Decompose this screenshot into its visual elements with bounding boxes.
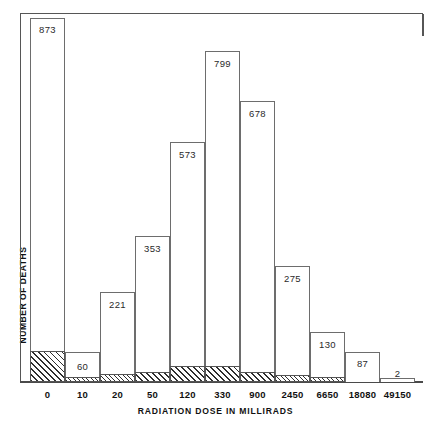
bar-hatch-1 [65, 377, 100, 382]
bar-2[interactable]: 221 [100, 292, 135, 382]
x-tick-7: 2450 [275, 389, 310, 400]
x-tick-2: 20 [100, 389, 135, 400]
bar-value-label: 60 [66, 361, 99, 372]
bar-3[interactable]: 353 [135, 236, 170, 382]
bars-layer: 873 60 221 353 573 799 678 [0, 0, 431, 429]
bar-9[interactable]: 87 [345, 352, 380, 382]
bar-value-label: 353 [136, 243, 169, 254]
x-tick-5: 330 [205, 389, 240, 400]
bar-value-label: 87 [346, 358, 379, 369]
x-tick-3: 50 [135, 389, 170, 400]
bar-hatch-2 [100, 374, 135, 382]
bar-7[interactable]: 275 [275, 266, 310, 382]
bar-value-label: 130 [311, 339, 344, 350]
radiation-dose-histogram: NUMBER OF DEATHS 873 60 221 353 573 [0, 0, 431, 429]
bar-5[interactable]: 799 [205, 51, 240, 382]
bar-hatch-6 [240, 372, 275, 382]
bar-value-label-10: 2 [380, 368, 415, 379]
bar-6[interactable]: 678 [240, 101, 275, 382]
bar-hatch-0 [30, 351, 65, 382]
bar-hatch-3 [135, 372, 170, 382]
bar-hatch-5 [205, 366, 240, 382]
bar-hatch-4 [170, 366, 205, 382]
bar-8[interactable]: 130 [310, 332, 345, 382]
x-tick-0: 0 [30, 389, 65, 400]
bar-0[interactable]: 873 [30, 18, 65, 382]
bar-hatch-8 [310, 377, 345, 382]
bar-hatch-7 [275, 375, 310, 382]
x-tick-10: 49150 [379, 389, 416, 400]
x-tick-9: 18080 [344, 389, 381, 400]
x-tick-6: 900 [240, 389, 275, 400]
bar-4[interactable]: 573 [170, 142, 205, 382]
x-tick-8: 6650 [310, 389, 345, 400]
bar-value-label: 678 [241, 108, 274, 119]
bar-value-label: 873 [31, 24, 64, 35]
x-axis-title: RADIATION DOSE IN MILLIRADS [0, 406, 431, 416]
x-tick-1: 10 [65, 389, 100, 400]
x-tick-4: 120 [170, 389, 205, 400]
bar-value-label: 221 [101, 299, 134, 310]
bar-value-label: 799 [206, 58, 239, 69]
bar-value-label: 573 [171, 149, 204, 160]
bar-value-label: 275 [276, 273, 309, 284]
